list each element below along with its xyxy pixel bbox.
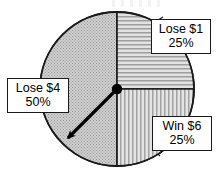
callout-label-lose-4: Lose $4 50% (7, 78, 69, 113)
callout-win-6-percent: 25% (157, 133, 207, 147)
spinner-hub (112, 84, 122, 94)
callout-label-lose-1: Lose $1 25% (151, 19, 211, 54)
callout-lose-1-outcome: Lose $1 (156, 22, 206, 36)
callout-win-6-outcome: Win $6 (157, 119, 207, 133)
callout-lose-1-percent: 25% (156, 36, 206, 50)
callout-lose-4-percent: 50% (12, 95, 64, 109)
spinner-chart-figure: Lose $1 25% Lose $4 50% Win $6 25% (0, 0, 219, 178)
callout-label-win-6: Win $6 25% (152, 116, 212, 151)
callout-lose-4-outcome: Lose $4 (12, 81, 64, 95)
